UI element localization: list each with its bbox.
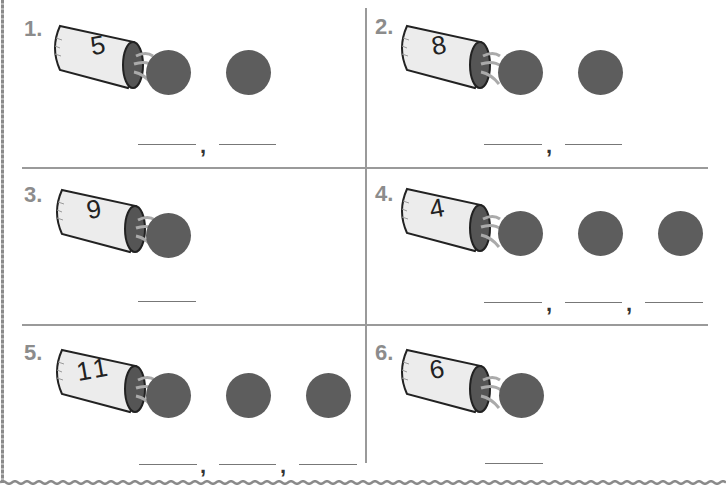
answer-blank[interactable] <box>219 144 276 145</box>
problem-4: 4. 4 , , <box>367 169 726 324</box>
answer-blank[interactable] <box>219 464 276 465</box>
answer-blank[interactable] <box>139 464 197 465</box>
problem-3: 3. 9 <box>0 169 365 324</box>
problem-number: 2. <box>375 14 393 40</box>
answer-blank[interactable] <box>299 464 357 465</box>
worksheet-page: 1. 5 , 2. 8 , 3. <box>0 0 726 502</box>
counter-circle <box>146 373 191 418</box>
problem-number: 4. <box>375 181 393 207</box>
problem-number: 5. <box>24 340 42 366</box>
separator-comma: , <box>200 135 206 157</box>
answer-blank[interactable] <box>645 302 703 303</box>
counter-circle <box>226 373 271 418</box>
counter-circle <box>498 50 543 95</box>
separator-comma: , <box>546 293 552 315</box>
separator-comma: , <box>200 455 206 477</box>
separator-comma: , <box>546 135 552 157</box>
problem-number: 3. <box>24 182 42 208</box>
answer-blank[interactable] <box>138 301 196 302</box>
counter-circle <box>499 373 544 418</box>
counter-circle <box>578 50 623 95</box>
counter-circle <box>146 50 191 95</box>
counter-circle <box>306 373 351 418</box>
answer-blank[interactable] <box>484 302 542 303</box>
counter-circle <box>578 211 623 256</box>
problem-number: 6. <box>375 340 393 366</box>
answer-blank[interactable] <box>565 144 622 145</box>
problem-6: 6. 6 <box>367 326 726 481</box>
separator-comma: , <box>280 455 286 477</box>
answer-blank[interactable] <box>484 144 542 145</box>
answer-blank[interactable] <box>485 463 543 464</box>
answer-blank[interactable] <box>138 144 196 145</box>
answer-blank[interactable] <box>565 302 622 303</box>
counter-circle <box>498 211 543 256</box>
counter-circle <box>658 211 703 256</box>
problem-1: 1. 5 , <box>0 0 365 167</box>
counter-circle <box>146 213 191 258</box>
problem-2: 2. 8 , <box>367 0 726 167</box>
separator-comma: , <box>626 293 632 315</box>
problem-5: 5. 11 , , <box>0 326 365 481</box>
problem-number: 1. <box>24 16 42 42</box>
counter-circle <box>226 50 271 95</box>
